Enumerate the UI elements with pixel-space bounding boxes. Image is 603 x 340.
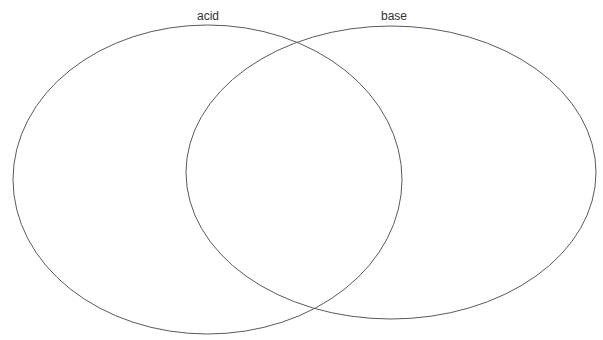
acid-set-ellipse	[13, 25, 402, 334]
venn-canvas	[0, 0, 603, 340]
base-set-ellipse	[186, 26, 596, 319]
